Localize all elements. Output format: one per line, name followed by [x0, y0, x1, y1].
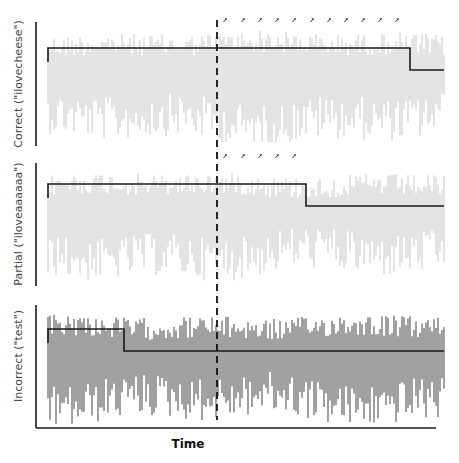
panel-correct: Correct ("ilovecheese") [12, 18, 444, 148]
panel-incorrect: Incorrect ("test") [12, 305, 444, 428]
panel-partial: Partial ("iloveaaaaaa") [12, 154, 444, 286]
chart-figure: Correct ("ilovecheese") Partial ("ilovea… [0, 0, 459, 463]
waveform-trace [48, 172, 444, 280]
x-axis-label: Time [172, 437, 205, 451]
arrow-markers [224, 18, 399, 22]
waveform-trace [48, 315, 444, 424]
y-axis-label: Incorrect ("test") [12, 310, 25, 402]
y-axis-label: Partial ("iloveaaaaaa") [12, 162, 25, 285]
arrow-markers [224, 154, 296, 158]
y-axis-label: Correct ("ilovecheese") [12, 20, 25, 148]
